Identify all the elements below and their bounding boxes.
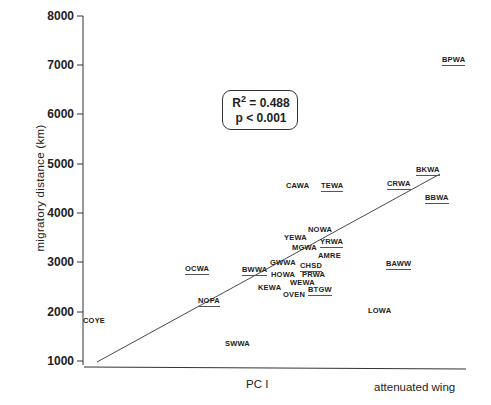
point-label: BWWA — [242, 265, 267, 276]
point-label: SWWA — [225, 339, 250, 348]
point-label: AMRE — [318, 251, 341, 260]
y-tick-label: 8000 — [24, 9, 74, 23]
y-axis-ticks — [77, 16, 83, 361]
point-label: COYE — [83, 316, 105, 325]
scatter-chart: 8000 7000 6000 5000 4000 3000 2000 1000 … — [0, 0, 491, 405]
y-tick-label: 2000 — [24, 305, 74, 319]
point-label: YEWA — [284, 233, 307, 242]
y-tick-label: 5000 — [24, 157, 74, 171]
point-label: BAWW — [386, 259, 411, 270]
point-label: MGWA — [292, 243, 317, 252]
point-label: NOWA — [308, 225, 332, 234]
point-label: YRWA — [320, 237, 343, 248]
y-tick-label: 7000 — [24, 58, 74, 72]
x-axis-title: PC I — [246, 378, 268, 390]
y-tick-label: 4000 — [24, 206, 74, 220]
y-tick-label: 1000 — [24, 354, 74, 368]
point-label: LOWA — [368, 306, 391, 315]
point-label: OCWA — [185, 264, 209, 275]
point-label: BTGW — [308, 285, 332, 296]
point-label: CRWA — [387, 179, 411, 190]
r-squared-text: R2 = 0.488 — [223, 94, 299, 110]
y-tick-label: 3000 — [24, 255, 74, 269]
point-label: OVEN — [283, 290, 305, 299]
point-label: BPWA — [442, 55, 465, 66]
y-tick-label: 6000 — [24, 107, 74, 121]
y-axis-title: migratory distance (km) — [34, 118, 46, 258]
stats-box: R2 = 0.488 p < 0.001 — [222, 90, 298, 130]
point-label: GWWA — [270, 258, 296, 267]
point-label: CAWA — [286, 181, 309, 190]
p-value-text: p < 0.001 — [223, 111, 299, 125]
x-axis-line — [84, 367, 466, 369]
x-axis-annotation: attenuated wing — [374, 381, 455, 393]
point-label: TEWA — [321, 181, 343, 192]
point-label: BBWA — [425, 193, 449, 204]
point-label: NOPA — [198, 296, 220, 307]
point-label: BKWA — [416, 165, 440, 176]
point-label: KEWA — [258, 283, 281, 292]
